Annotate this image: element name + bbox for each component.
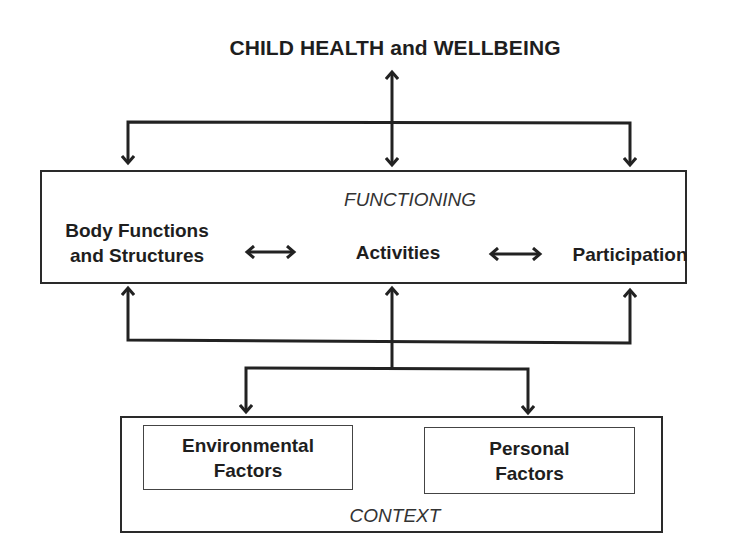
context-bus-line [246, 368, 528, 413]
personal-factors-box: Personal Factors [424, 427, 635, 494]
top-bus-line [128, 122, 630, 165]
middle-bus-line [128, 288, 630, 343]
body-functions-line1: Body Functions [44, 218, 230, 243]
environmental-line2: Factors [182, 458, 314, 483]
personal-line1: Personal [489, 436, 569, 461]
environmental-line1: Environmental [182, 433, 314, 458]
body-functions-label: Body Functions and Structures [44, 218, 230, 268]
participation-label: Participation [550, 242, 710, 267]
environmental-factors-box: Environmental Factors [143, 425, 353, 490]
body-functions-line2: and Structures [44, 243, 230, 268]
diagram-title: CHILD HEALTH and WELLBEING [0, 36, 745, 60]
personal-line2: Factors [489, 461, 569, 486]
functioning-label: FUNCTIONING [290, 189, 530, 211]
activities-label: Activities [318, 240, 478, 265]
context-label: CONTEXT [300, 505, 490, 527]
